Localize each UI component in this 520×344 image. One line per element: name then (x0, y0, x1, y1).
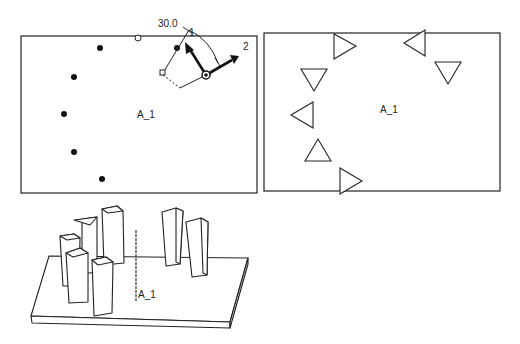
axis-arrows (185, 42, 239, 75)
axis-label-2: 2 (243, 41, 249, 52)
triangle-marker-right[interactable] (340, 168, 362, 194)
axis-label-1: 1 (189, 27, 195, 38)
angle-label: 30.0 (158, 18, 178, 29)
triangle-marker-down[interactable] (301, 69, 327, 91)
point-marker[interactable] (61, 111, 67, 117)
right-view-label: A_1 (380, 104, 398, 115)
triangle-marker-right[interactable] (334, 34, 356, 59)
point-marker[interactable] (97, 45, 103, 51)
iso-view-label: A_1 (138, 289, 156, 300)
diagram-canvas: 30.0 1 2 A_1 A_1 (0, 0, 520, 344)
left-view-label: A_1 (137, 109, 155, 120)
triangle-marker-up[interactable] (305, 139, 331, 161)
triangle-marker-left[interactable] (291, 102, 313, 128)
gizmo-handle-square[interactable] (160, 70, 165, 75)
left-dots (61, 45, 180, 182)
iso-view (31, 206, 248, 328)
point-marker[interactable] (71, 149, 77, 155)
point-marker[interactable] (71, 74, 77, 80)
open-point-marker[interactable] (135, 35, 141, 41)
triangle-marker-down[interactable] (435, 62, 461, 84)
right-triangles (291, 30, 461, 194)
point-marker[interactable] (99, 176, 105, 182)
triangle-marker-left[interactable] (404, 30, 425, 56)
